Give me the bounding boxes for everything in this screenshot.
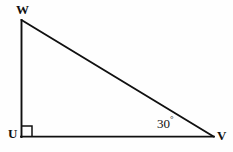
degree-symbol-icon: °: [170, 114, 174, 124]
angle-measure-label-30-degrees: 30°: [157, 116, 174, 131]
triangle-drawing: [0, 0, 233, 152]
right-angle-marker-icon: [22, 126, 32, 136]
vertex-label-w: W: [16, 3, 29, 16]
vertex-label-v: V: [217, 129, 226, 142]
side-wv-hypotenuse-line: [22, 20, 214, 137]
geometry-figure: W U V 30°: [0, 0, 233, 152]
angle-value-text: 30: [157, 116, 170, 131]
vertex-label-u: U: [8, 127, 17, 140]
